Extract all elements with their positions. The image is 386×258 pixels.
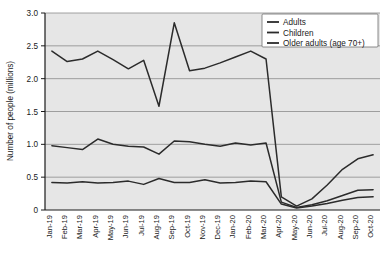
chart-legend: AdultsChildrenOlder adults (age 70+) [262, 14, 378, 48]
x-tick-label: May-20 [290, 215, 299, 240]
x-tick-label: Jul-20 [320, 215, 329, 236]
y-tick-label: 0 [33, 206, 38, 215]
legend-label: Children [283, 29, 314, 38]
x-tick-label: May-19 [106, 215, 115, 240]
y-tick-label: 1.5 [27, 108, 39, 117]
x-tick-label: Jan-19 [45, 215, 54, 238]
chart-container: 00.51.01.52.02.53.0 Jan-19Feb-19Mar-19Ap… [0, 0, 386, 258]
x-tick-label: Apr-19 [91, 215, 100, 238]
x-tick-label: Mar-20 [259, 215, 268, 239]
y-tick-label: 2.5 [27, 42, 39, 51]
legend-label: Adults [283, 18, 306, 27]
x-tick-label: Oct-20 [366, 215, 375, 238]
x-tick-label: Sep-20 [351, 215, 360, 240]
x-tick-label: Oct-19 [183, 215, 192, 238]
y-tick-label: 0.5 [27, 173, 39, 182]
x-tick-label: Mar-19 [75, 215, 84, 239]
x-tick-label: Feb-20 [244, 215, 253, 239]
y-tick-label: 2.0 [27, 75, 39, 84]
x-tick-label: Sep-19 [167, 215, 176, 240]
line-chart: 00.51.01.52.02.53.0 Jan-19Feb-19Mar-19Ap… [0, 0, 386, 258]
x-tick-label: Nov-19 [198, 215, 207, 239]
x-tick-label: Jul-19 [137, 215, 146, 236]
x-tick-label: Apr-20 [274, 215, 283, 238]
y-tick-label: 1.0 [27, 140, 39, 149]
x-tick-label: Jun-20 [305, 215, 314, 238]
y-tick-label: 3.0 [27, 9, 39, 18]
x-tick-label: Aug-20 [336, 215, 345, 240]
x-tick-label: Jan-20 [228, 215, 237, 238]
x-tick-label: Aug-19 [152, 215, 161, 240]
y-axis-title: Number of people (millions) [6, 61, 15, 161]
x-tick-label: Jun-19 [121, 215, 130, 238]
x-tick-label: Feb-19 [60, 215, 69, 239]
x-tick-label: Dec-19 [213, 215, 222, 239]
legend-label: Older adults (age 70+) [283, 39, 365, 48]
